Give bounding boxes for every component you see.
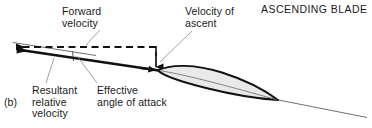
leader-forward-velocity — [86, 30, 100, 45]
chord-extension-forward-line — [13, 43, 96, 56]
figure-ascending-blade-velocity-diagram: Forward velocity Velocity of ascent ASCE… — [0, 0, 372, 128]
label-forward-velocity: Forward velocity — [62, 6, 101, 29]
figure-title: ASCENDING BLADE — [261, 4, 368, 16]
leader-velocity-of-ascent — [160, 31, 192, 62]
label-resultant-relative-velocity: Resultant relative velocity — [32, 85, 77, 120]
label-velocity-of-ascent: Velocity of ascent — [185, 6, 234, 29]
label-effective-angle-of-attack: Effective angle of attack — [97, 85, 167, 108]
chord-extension-aft-line — [276, 100, 367, 118]
effective-angle-of-attack-marker — [73, 52, 74, 62]
resultant-relative-velocity-vector — [17, 50, 159, 71]
resultant-vector-hub-head — [140, 68, 156, 70]
leader-resultant-relative-velocity — [46, 58, 54, 83]
panel-label: (b) — [4, 97, 17, 109]
